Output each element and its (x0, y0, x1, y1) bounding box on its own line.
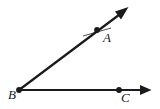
geometry-figure: A B C (0, 0, 160, 109)
diagram-background (0, 0, 160, 109)
point-a-label: A (102, 30, 111, 45)
point-c-label: C (121, 90, 130, 105)
angle-diagram-canvas: A B C (0, 0, 160, 109)
point-a-dot (94, 27, 100, 33)
point-b-dot (16, 87, 22, 93)
point-b-label: B (8, 87, 16, 102)
